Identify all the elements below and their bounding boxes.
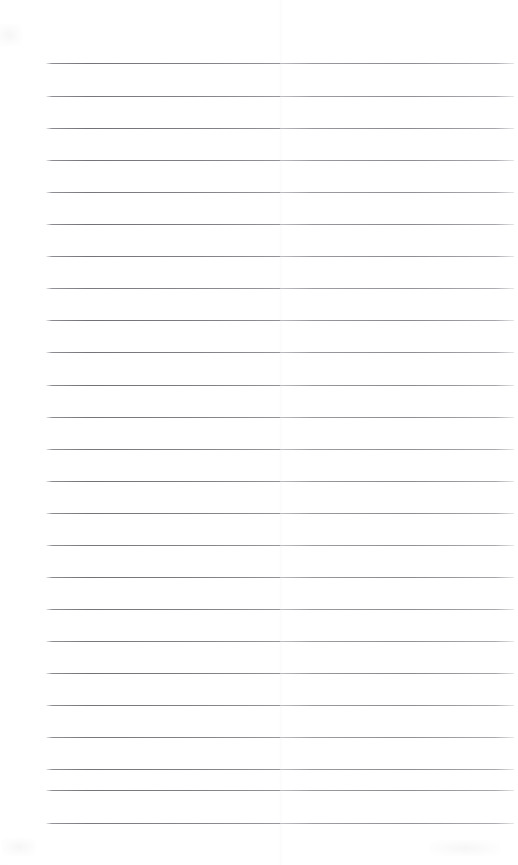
rule-line (46, 823, 514, 824)
rule-line-segment-left (46, 481, 280, 482)
rule-line-segment-left (46, 769, 280, 770)
rule-line-segment-right (280, 673, 514, 674)
scan-seam (279, 0, 282, 865)
rule-line-segment-left (46, 128, 280, 129)
rule-line-segment-left (46, 790, 280, 791)
rule-line-segment-right (280, 385, 514, 386)
rule-line-segment-left (46, 577, 280, 578)
rule-line-segment-right (280, 63, 514, 64)
rule-line (46, 256, 514, 257)
rule-line-segment-right (280, 417, 514, 418)
rule-line (46, 128, 514, 129)
rule-line (46, 577, 514, 578)
rule-line (46, 96, 514, 97)
rule-line-segment-right (280, 790, 514, 791)
rule-line (46, 641, 514, 642)
rule-line (46, 192, 514, 193)
rule-line-segment-left (46, 449, 280, 450)
rule-line (46, 545, 514, 546)
rule-line-segment-right (280, 577, 514, 578)
rule-line-segment-left (46, 192, 280, 193)
rule-line (46, 160, 514, 161)
rule-line-segment-left (46, 417, 280, 418)
rule-line-segment-left (46, 705, 280, 706)
rule-line-segment-left (46, 385, 280, 386)
rule-line-segment-right (280, 256, 514, 257)
rule-line (46, 790, 514, 791)
rule-line-segment-right (280, 352, 514, 353)
scan-smudge-bottom-right (430, 840, 500, 856)
rule-line-segment-right (280, 288, 514, 289)
rule-line-segment-right (280, 128, 514, 129)
rule-line-segment-left (46, 641, 280, 642)
rule-line (46, 320, 514, 321)
rule-line-segment-right (280, 823, 514, 824)
rule-line-segment-right (280, 320, 514, 321)
rule-line-segment-right (280, 513, 514, 514)
rule-line-segment-left (46, 823, 280, 824)
rule-line-segment-right (280, 449, 514, 450)
rule-line-segment-right (280, 192, 514, 193)
rule-line-segment-right (280, 705, 514, 706)
rule-line (46, 288, 514, 289)
rule-line-segment-right (280, 224, 514, 225)
rule-line-segment-left (46, 224, 280, 225)
rule-line-segment-left (46, 96, 280, 97)
scan-smudge-bottom-left (2, 838, 36, 856)
rule-line-segment-right (280, 545, 514, 546)
rule-line-segment-right (280, 737, 514, 738)
rule-line-segment-left (46, 160, 280, 161)
rule-line (46, 609, 514, 610)
rule-line (46, 417, 514, 418)
rule-line-segment-right (280, 160, 514, 161)
scanned-page (0, 0, 518, 865)
rule-line-segment-left (46, 288, 280, 289)
rule-line (46, 449, 514, 450)
rule-line-segment-right (280, 96, 514, 97)
rule-line-segment-left (46, 256, 280, 257)
rule-line (46, 224, 514, 225)
scan-smudge-top-left (0, 24, 22, 46)
rule-line (46, 63, 514, 64)
rule-line (46, 481, 514, 482)
rule-line (46, 673, 514, 674)
rule-line-segment-left (46, 320, 280, 321)
rule-line (46, 705, 514, 706)
rule-line-segment-right (280, 641, 514, 642)
rule-line (46, 385, 514, 386)
rule-line-segment-right (280, 481, 514, 482)
rule-line (46, 513, 514, 514)
rule-line-segment-left (46, 545, 280, 546)
rule-line (46, 769, 514, 770)
rule-line-segment-right (280, 609, 514, 610)
rule-line-segment-right (280, 769, 514, 770)
rule-line-segment-left (46, 63, 280, 64)
rule-line-segment-left (46, 609, 280, 610)
rule-line-segment-left (46, 737, 280, 738)
rule-line-segment-left (46, 352, 280, 353)
rule-line (46, 352, 514, 353)
paper-texture (0, 0, 518, 865)
rule-line (46, 737, 514, 738)
rule-line-segment-left (46, 513, 280, 514)
rule-line-segment-left (46, 673, 280, 674)
